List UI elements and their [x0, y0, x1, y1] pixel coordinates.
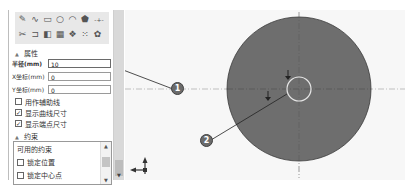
show-curve-dimension-checkbox[interactable]: ✓显示曲线尺寸 — [15, 108, 67, 117]
sketch-canvas[interactable]: 1 2 — [125, 10, 405, 180]
constraint-label: 锁定中心点 — [27, 170, 62, 180]
construction-line-label: 用作辅助线 — [25, 97, 60, 107]
sketch-toolbar: ✎ ∿ ▭ ○ ◠ ⬟ -+- ✂ ⊐ ◧ ▦ ❖ ⁙ ✿ — [15, 12, 109, 44]
checkbox-unchecked-icon — [15, 98, 22, 105]
centerline-icon[interactable]: -+- — [92, 14, 106, 25]
properties-panel: ✎ ∿ ▭ ○ ◠ ⬟ -+- ✂ ⊐ ◧ ▦ ❖ ⁙ ✿ ▲属性 半径(mm)… — [8, 10, 114, 180]
checkbox-unchecked-icon — [17, 159, 24, 166]
checkbox-unchecked-icon — [17, 172, 24, 179]
constraints-title: 约束 — [24, 133, 38, 141]
constraints-scrollbar[interactable]: ▲ ▼ — [100, 142, 111, 184]
scroll-thumb[interactable] — [102, 157, 110, 167]
pattern-icon[interactable]: ▦ — [55, 29, 66, 40]
constraints-section-header[interactable]: ▲约束 — [15, 131, 38, 141]
offset-icon[interactable]: ⊐ — [30, 29, 41, 40]
radius-field: 半径(mm) 10 — [12, 58, 112, 68]
properties-section-header[interactable]: ▲属性 — [15, 48, 38, 58]
polygon-icon[interactable]: ⬟ — [80, 14, 91, 25]
checkbox-checked-icon: ✓ — [15, 120, 22, 127]
show-endpoint-dimension-checkbox[interactable]: ✓显示端点尺寸 — [15, 119, 67, 128]
grid-points-icon[interactable]: ⁙ — [80, 29, 91, 40]
collapse-caret-icon: ▲ — [15, 51, 19, 57]
trim-icon[interactable]: ✂ — [17, 29, 28, 40]
construction-line-checkbox[interactable]: 用作辅助线 — [15, 97, 60, 106]
scroll-up-icon[interactable]: ▲ — [101, 142, 111, 150]
line-icon[interactable]: ✎ — [17, 14, 28, 25]
sketch-drawing — [125, 10, 405, 180]
circle-icon[interactable]: ○ — [55, 14, 66, 25]
show-endpoint-dimension-label: 显示端点尺寸 — [25, 119, 67, 129]
settings-icon[interactable]: ✿ — [92, 29, 103, 40]
properties-title: 属性 — [24, 50, 38, 58]
collapse-caret-icon: ▲ — [15, 134, 19, 140]
constraints-list: 可用的约束 锁定位置 锁定中心点 ▲ ▼ — [13, 141, 112, 185]
x-coord-input[interactable]: 0 — [48, 72, 111, 81]
arc-icon[interactable]: ◠ — [67, 14, 78, 25]
constraint-lock-position[interactable]: 锁定位置 — [14, 157, 111, 167]
rectangle-icon[interactable]: ▭ — [42, 14, 53, 25]
panel-scrollbar[interactable]: ▼ — [114, 10, 124, 180]
radius-label: 半径(mm) — [12, 59, 48, 68]
spline-icon[interactable]: ∿ — [30, 14, 41, 25]
checkbox-checked-icon: ✓ — [15, 109, 22, 116]
radius-input[interactable]: 10 — [48, 59, 111, 68]
mirror-icon[interactable]: ◧ — [42, 29, 53, 40]
toolbar-row-2: ✂ ⊐ ◧ ▦ ❖ ⁙ ✿ — [15, 27, 109, 42]
scroll-down-icon[interactable]: ▼ — [114, 172, 124, 178]
scroll-down-icon[interactable]: ▼ — [101, 176, 111, 184]
constraint-label: 锁定位置 — [27, 157, 55, 167]
x-coord-field: X坐标(mm) 0 — [12, 71, 112, 81]
y-coord-input[interactable]: 0 — [48, 85, 111, 94]
show-curve-dimension-label: 显示曲线尺寸 — [25, 108, 67, 118]
transform-icon[interactable]: ❖ — [67, 29, 78, 40]
y-coord-label: Y坐标(mm) — [12, 85, 48, 94]
y-coord-field: Y坐标(mm) 0 — [12, 84, 112, 94]
constraints-list-header: 可用的约束 — [14, 142, 111, 154]
toolbar-row-1: ✎ ∿ ▭ ○ ◠ ⬟ -+- — [15, 12, 109, 27]
callout-2: 2 — [200, 134, 213, 147]
x-coord-label: X坐标(mm) — [12, 72, 48, 81]
constraint-lock-center[interactable]: 锁定中心点 — [14, 170, 111, 180]
callout-1: 1 — [171, 82, 184, 95]
